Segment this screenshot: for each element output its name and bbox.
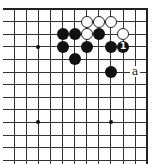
board-right-edge — [146, 9, 148, 164]
star-point — [36, 45, 40, 49]
grid-line-horizontal — [3, 135, 148, 136]
white-stone — [81, 28, 93, 40]
star-point — [36, 120, 40, 124]
black-stone — [105, 66, 117, 78]
grid-line-vertical — [50, 9, 51, 164]
white-stone — [105, 16, 117, 28]
white-stone — [93, 16, 105, 28]
white-stone — [81, 16, 93, 28]
black-stone — [57, 41, 69, 53]
grid-line-vertical — [38, 9, 39, 164]
grid-line-horizontal — [3, 147, 148, 148]
grid-line-vertical — [135, 9, 136, 164]
point-label: a — [130, 66, 140, 77]
grid-line-horizontal — [3, 160, 148, 161]
grid-line-horizontal — [3, 84, 148, 85]
grid-line-vertical — [14, 9, 15, 164]
board-top-edge — [3, 8, 148, 10]
black-stone — [93, 28, 105, 40]
grid-line-vertical — [26, 9, 27, 164]
black-stone — [69, 53, 81, 65]
black-stone — [57, 28, 69, 40]
grid-line-vertical — [110, 9, 111, 164]
grid-line-horizontal — [3, 21, 148, 22]
black-stone — [81, 41, 93, 53]
black-stone — [105, 41, 117, 53]
grid-line-horizontal — [3, 122, 148, 123]
white-stone — [117, 28, 129, 40]
star-point — [109, 120, 113, 124]
grid-line-horizontal — [3, 72, 148, 73]
grid-line-horizontal — [3, 109, 148, 110]
grid-line-horizontal — [3, 97, 148, 98]
go-board: 1a — [0, 0, 158, 164]
black-stone — [69, 28, 81, 40]
black-stone: 1 — [117, 41, 129, 53]
move-number: 1 — [120, 42, 126, 51]
